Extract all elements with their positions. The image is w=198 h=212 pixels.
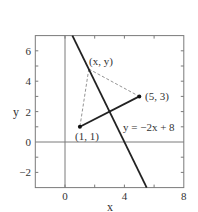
y-tick-label-neg2: −2	[19, 166, 31, 178]
y-tick-label-2: 2	[26, 106, 32, 118]
x-tick-label-4: 4	[122, 190, 128, 202]
point-label-5-3: (5, 3)	[145, 90, 169, 103]
point-label-xy: (x, y)	[89, 55, 113, 68]
diagram-canvas: 0 4 8 −2 0 2 4 6 x y (x, y) (5, 3) (1, 1…	[0, 0, 198, 212]
y-tick-label-0: 0	[26, 136, 32, 148]
y-tick-label-4: 4	[26, 75, 32, 87]
x-axis-label: x	[107, 200, 113, 212]
x-tick-label-0: 0	[62, 190, 68, 202]
equation-label: y = −2x + 8	[123, 121, 175, 133]
y-tick-label-6: 6	[26, 45, 32, 57]
point-label-1-1: (1, 1)	[75, 130, 99, 143]
y-axis-label: y	[13, 105, 19, 119]
x-tick-label-8: 8	[181, 190, 187, 202]
dashed-segment-p-to-a	[80, 69, 89, 127]
point-1-1	[78, 125, 82, 129]
coordinate-diagram: 0 4 8 −2 0 2 4 6 x y (x, y) (5, 3) (1, 1…	[0, 0, 198, 212]
point-5-3	[137, 94, 141, 98]
